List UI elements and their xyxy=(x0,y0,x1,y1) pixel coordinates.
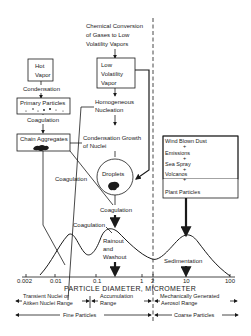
svg-text:Fine Particles: Fine Particles xyxy=(63,312,97,318)
coagulation-peak-label: Coagulation xyxy=(73,222,105,228)
coagulation-center-label: Coagulation xyxy=(100,207,132,213)
svg-text:Aerosol Range: Aerosol Range xyxy=(161,300,197,306)
chemical-conversion-label: Chemical Conversion of Gases to Low Vola… xyxy=(86,23,143,47)
hot-vapor-label: Hot xyxy=(35,63,45,69)
primary-particles-label: Primary Particles xyxy=(20,100,65,106)
transient-range: Transient Nuclei or Aitken Nuclei Range xyxy=(16,293,98,308)
mechanical-range: Mechanically Generated Aerosol Range xyxy=(155,293,237,306)
svg-text:Sea Spray: Sea Spray xyxy=(165,161,191,167)
svg-text:+: + xyxy=(183,143,186,149)
svg-text:Low: Low xyxy=(101,62,113,68)
svg-text:Aitken Nuclei Range: Aitken Nuclei Range xyxy=(23,300,73,306)
hot-vapor-label: Vapor xyxy=(35,72,51,78)
svg-text:Plant Particles: Plant Particles xyxy=(165,189,200,195)
aerosol-size-distribution-diagram: Chemical Conversion of Gases to Low Vola… xyxy=(0,0,251,336)
svg-text:100: 100 xyxy=(225,278,236,284)
droplets-label: Droplets xyxy=(102,171,124,177)
svg-text:0.002: 0.002 xyxy=(17,278,33,284)
svg-text:Condensation Growth: Condensation Growth xyxy=(83,135,141,141)
svg-text:Homogeneous: Homogeneous xyxy=(95,99,134,105)
svg-text:Accumulation: Accumulation xyxy=(100,293,133,299)
coagulation-left-label: Coagulation xyxy=(55,176,87,182)
svg-text:0.01: 0.01 xyxy=(50,278,62,284)
svg-text:Nucleation: Nucleation xyxy=(95,107,123,113)
svg-text:Mechanically Generated: Mechanically Generated xyxy=(160,293,219,299)
svg-text:Transient Nuclei or: Transient Nuclei or xyxy=(23,293,69,299)
svg-text:Range: Range xyxy=(100,300,116,306)
aggregates-down-line xyxy=(43,151,65,265)
svg-text:Washout: Washout xyxy=(103,254,127,260)
fine-particles-range: Fine Particles xyxy=(16,312,151,318)
svg-text:of Nuclei: of Nuclei xyxy=(83,143,106,149)
svg-text:Chemical Conversion: Chemical Conversion xyxy=(86,23,143,29)
coagulation-label: Coagulation xyxy=(27,117,59,123)
accumulation-range: Accumulation Range xyxy=(100,293,151,306)
axis-tick-labels: 0.002 0.01 0.1 1 2 10 100 xyxy=(17,278,236,284)
condensation-label: Condensation xyxy=(23,86,60,92)
svg-text:Volatility: Volatility xyxy=(101,71,123,77)
sedimentation-label: Sedimentation xyxy=(164,258,202,264)
svg-text:Volatility Vapors: Volatility Vapors xyxy=(86,41,128,47)
svg-text:10: 10 xyxy=(183,278,190,284)
svg-text:Emissions: Emissions xyxy=(165,150,190,156)
svg-text:0.1: 0.1 xyxy=(93,278,102,284)
axis-ticks xyxy=(26,274,230,277)
svg-text:2: 2 xyxy=(151,278,155,284)
size-distribution-curve xyxy=(40,229,230,276)
svg-text:Vapor: Vapor xyxy=(101,80,117,86)
x-axis-label: PARTICLE DIAMETER, MICROMETER xyxy=(64,285,196,292)
chain-aggregates-label: Chain Aggregates xyxy=(20,136,68,142)
svg-text:+: + xyxy=(183,176,186,182)
coarse-particles-range: Coarse Particles xyxy=(155,312,238,318)
svg-text:of Gases to Low: of Gases to Low xyxy=(86,32,130,38)
vapor-to-droplets-arrow xyxy=(135,70,149,179)
svg-text:Coarse Particles: Coarse Particles xyxy=(174,312,215,318)
svg-text:1: 1 xyxy=(140,278,144,284)
svg-text:and: and xyxy=(103,246,113,252)
svg-text:Rainout: Rainout xyxy=(103,238,124,244)
